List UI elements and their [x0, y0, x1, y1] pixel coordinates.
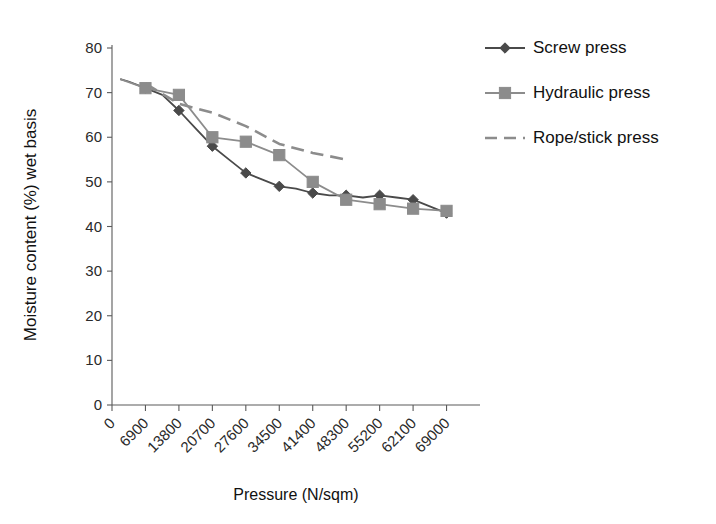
y-tick-label: 80	[85, 39, 102, 56]
x-tick-label: 41400	[277, 414, 319, 456]
x-tick-label: 34500	[244, 414, 286, 456]
y-axis: 01020304050607080	[85, 39, 112, 413]
y-tick-label: 40	[85, 218, 102, 235]
x-tick-label: 62100	[378, 414, 420, 456]
data-point-marker	[274, 150, 285, 161]
data-point-marker	[441, 205, 452, 216]
legend-marker-square-icon	[499, 87, 510, 98]
legend-label: Hydraulic press	[533, 83, 650, 102]
x-tick-label: 0	[100, 414, 118, 432]
data-point-marker	[407, 203, 418, 214]
moisture-pressure-line-chart: 01020304050607080 0690013800207002760034…	[0, 0, 716, 524]
y-tick-label: 60	[85, 128, 102, 145]
legend-marker-diamond-icon	[500, 43, 510, 53]
chart-legend: Screw pressHydraulic pressRope/stick pre…	[485, 38, 659, 147]
x-tick-label: 55200	[344, 414, 386, 456]
legend-item-hydraulic-press[interactable]: Hydraulic press	[485, 83, 650, 102]
x-axis-title: Pressure (N/sqm)	[233, 486, 358, 503]
y-tick-label: 50	[85, 173, 102, 190]
legend-item-screw-press[interactable]: Screw press	[485, 38, 627, 57]
y-tick-label: 10	[85, 351, 102, 368]
y-tick-label: 30	[85, 262, 102, 279]
x-tick-label: 27600	[210, 414, 252, 456]
data-point-marker	[307, 176, 318, 187]
legend-label: Screw press	[533, 38, 627, 57]
x-axis: 0690013800207002760034500414004830055200…	[100, 405, 480, 456]
y-tick-label: 20	[85, 307, 102, 324]
x-tick-label: 20700	[177, 414, 219, 456]
y-tick-label: 70	[85, 84, 102, 101]
data-point-marker	[341, 194, 352, 205]
x-tick-label: 48300	[311, 414, 353, 456]
x-tick-label: 13800	[144, 414, 186, 456]
legend-item-rope-stick-press[interactable]: Rope/stick press	[485, 128, 659, 147]
data-point-marker	[374, 199, 385, 210]
data-point-marker	[240, 136, 251, 147]
data-point-marker	[207, 132, 218, 143]
data-point-marker	[173, 89, 184, 100]
data-point-marker	[274, 181, 284, 191]
chart-container: 01020304050607080 0690013800207002760034…	[0, 0, 716, 524]
y-tick-label: 0	[94, 396, 102, 413]
y-axis-title: Moisture content (%) wet basis	[21, 109, 40, 341]
x-tick-label: 69000	[411, 414, 453, 456]
data-series-group	[120, 79, 452, 218]
data-point-marker	[308, 188, 318, 198]
legend-label: Rope/stick press	[533, 128, 659, 147]
series-screw-press	[120, 79, 452, 218]
